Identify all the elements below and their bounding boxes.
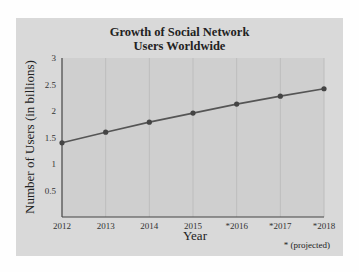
data-point (190, 111, 195, 116)
y-tick-label: 3 (52, 53, 57, 63)
x-tick-label: *2017 (269, 221, 292, 231)
x-tick-label: *2016 (225, 221, 248, 231)
x-tick-label: 2012 (53, 221, 71, 231)
x-tick-label: 2013 (97, 221, 116, 231)
y-tick-label: 1.5 (45, 133, 57, 143)
y-tick-label: 1 (52, 159, 57, 169)
projected-note: * (projected) (284, 240, 330, 250)
y-tick-label: 2 (52, 106, 57, 116)
line-chart: 0.511.522.532012201320142015*2016*2017*2… (0, 0, 359, 272)
x-tick-label: *2018 (313, 221, 336, 231)
data-point (234, 102, 239, 107)
data-point (103, 130, 108, 135)
data-point (59, 140, 64, 145)
data-point (278, 94, 283, 99)
data-point (321, 86, 326, 91)
data-point (147, 120, 152, 125)
x-axis-label: Year (183, 228, 207, 244)
y-tick-label: 2.5 (45, 80, 57, 90)
y-axis-label: Number of Users (in billions) (22, 60, 38, 214)
x-tick-label: 2014 (140, 221, 159, 231)
y-tick-label: 0.5 (45, 186, 57, 196)
